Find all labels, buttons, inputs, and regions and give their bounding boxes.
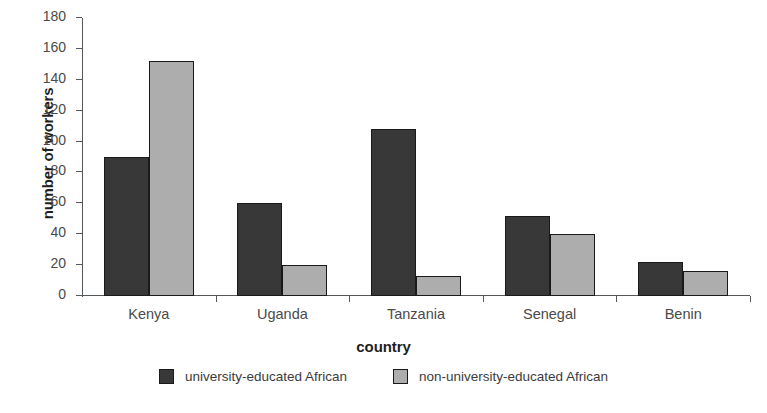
- y-axis-tick: 0: [76, 295, 82, 296]
- plot-area: 020406080100120140160180: [82, 18, 750, 296]
- y-axis-tick: 80: [76, 171, 82, 172]
- x-axis-tick: [750, 296, 751, 302]
- y-axis-tick-label: 140: [43, 70, 66, 86]
- bar: [416, 276, 461, 296]
- legend-label: non-university-educated African: [419, 369, 608, 384]
- legend-label: university-educated African: [185, 369, 347, 384]
- x-axis-label: Benin: [603, 306, 763, 322]
- y-axis-tick: 60: [76, 202, 82, 203]
- bar: [550, 234, 595, 296]
- bar: [638, 262, 683, 296]
- y-axis-tick: 120: [76, 110, 82, 111]
- y-axis-tick-label: 160: [43, 39, 66, 55]
- legend-entry: university-educated African: [159, 369, 347, 384]
- y-axis-tick-label: 0: [58, 286, 66, 302]
- y-axis-tick: 140: [76, 79, 82, 80]
- bar-chart: number of workers 0204060801001201401601…: [0, 0, 767, 413]
- bar: [149, 61, 194, 296]
- bar: [237, 203, 282, 296]
- bar: [282, 265, 327, 296]
- y-axis-tick: 20: [76, 264, 82, 265]
- y-axis-tick-label: 100: [43, 132, 66, 148]
- y-axis-tick: 160: [76, 48, 82, 49]
- y-axis-tick: 180: [76, 17, 82, 18]
- x-axis-tick: [616, 296, 617, 302]
- x-axis-tick: [349, 296, 350, 302]
- y-axis-tick: 40: [76, 233, 82, 234]
- bar-group: [104, 18, 194, 296]
- legend-entry: non-university-educated African: [393, 369, 608, 384]
- y-axis-tick-label: 180: [43, 8, 66, 24]
- x-axis-tick: [483, 296, 484, 302]
- bar: [104, 157, 149, 296]
- y-axis-tick-label: 80: [50, 162, 66, 178]
- bar-group: [237, 18, 327, 296]
- y-axis-tick-label: 20: [50, 255, 66, 271]
- bar-group: [638, 18, 728, 296]
- bar-group: [505, 18, 595, 296]
- x-axis-title: country: [0, 338, 767, 355]
- y-axis-tick-label: 40: [50, 224, 66, 240]
- y-axis-tick-label: 60: [50, 193, 66, 209]
- y-axis-tick-label: 120: [43, 101, 66, 117]
- legend-swatch-light: [393, 369, 408, 384]
- x-axis-tick: [216, 296, 217, 302]
- bar: [505, 216, 550, 296]
- bar-group: [371, 18, 461, 296]
- bar: [371, 129, 416, 296]
- y-axis-tick: 100: [76, 141, 82, 142]
- chart-legend: university-educated Africannon-universit…: [0, 369, 767, 384]
- y-axis-line: [82, 18, 83, 297]
- bar: [683, 271, 728, 296]
- legend-swatch-dark: [159, 369, 174, 384]
